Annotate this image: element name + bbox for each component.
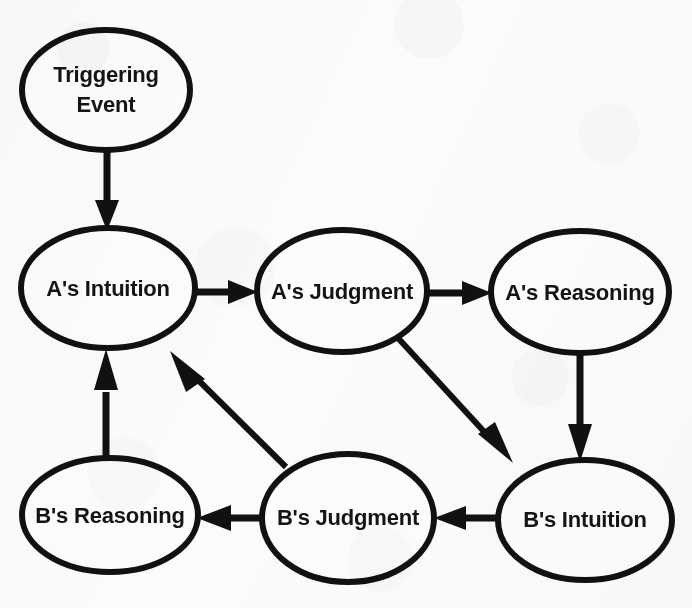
node-a-judgment[interactable]: A's Judgment: [257, 230, 427, 352]
diagram-canvas: Triggering Event to A's Intuition A's In…: [0, 0, 692, 608]
arrow-head-icon: [568, 424, 592, 462]
node-label: A's Intuition: [46, 276, 170, 301]
edge-b-intuition-to-b-judgment: B's Intuition to B's Judgment: [434, 506, 498, 530]
node-label: B's Judgment: [277, 505, 420, 530]
arrow-head-icon: [434, 506, 466, 530]
arrow-head-icon: [462, 281, 492, 305]
node-a-intuition[interactable]: A's Intuition: [21, 228, 195, 348]
node-layer: Triggering Event A's Intuition A's Judgm…: [21, 30, 672, 582]
edge-line: [398, 338, 489, 437]
node-shape-ellipse[interactable]: [22, 30, 190, 150]
node-label: B's Intuition: [523, 507, 647, 532]
edge-b-judgment-to-b-reasoning: B's Judgment to B's Reasoning: [197, 505, 262, 531]
edge-line: [189, 371, 286, 467]
node-b-judgment[interactable]: B's Judgment: [262, 454, 434, 582]
edge-b-reasoning-to-a-intuition: B's Reasoning to A's Intuition: [94, 349, 118, 458]
node-triggering-event[interactable]: Triggering Event: [22, 30, 190, 150]
edge-a-judgment-to-a-reasoning: A's Judgment to A's Reasoning: [426, 281, 492, 305]
node-label-line2: Event: [77, 92, 137, 117]
edge-a-reasoning-to-b-intuition: A's Reasoning to B's Intuition: [568, 352, 592, 462]
edge-b-judgment-to-a-judgment: B's Judgment to A's Judgment: [170, 351, 286, 467]
node-label: A's Judgment: [271, 279, 414, 304]
edge-a-intuition-to-a-judgment: A's Intuition to A's Judgment: [194, 280, 258, 304]
arrow-head-icon: [197, 505, 231, 531]
node-b-intuition[interactable]: B's Intuition: [498, 460, 672, 580]
node-label: B's Reasoning: [35, 503, 184, 528]
node-label: A's Reasoning: [505, 280, 654, 305]
social-intuitionist-model-diagram: Triggering Event to A's Intuition A's In…: [0, 0, 692, 608]
node-label-line1: Triggering: [53, 62, 159, 87]
node-b-reasoning[interactable]: B's Reasoning: [22, 458, 198, 572]
edge-a-judgment-to-b-intuition: A's Judgment to B's Intuition: [398, 338, 513, 463]
arrow-head-icon: [228, 280, 258, 304]
arrow-head-icon: [94, 349, 118, 390]
node-a-reasoning[interactable]: A's Reasoning: [491, 231, 669, 353]
edge-triggering-event-to-a-intuition: Triggering Event to A's Intuition: [95, 150, 119, 231]
